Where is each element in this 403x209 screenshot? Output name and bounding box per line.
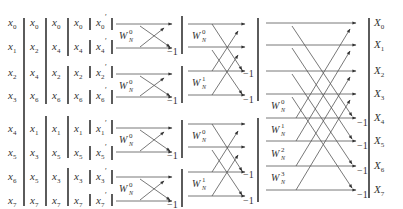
output-label: X1 [373, 38, 385, 53]
input-label-original: x1 [7, 40, 17, 55]
input-label-split-3: x5 [73, 146, 83, 161]
neg-one-stage3: −1 [357, 165, 368, 176]
svg-text:W: W [119, 134, 129, 145]
svg-text:W: W [271, 100, 281, 111]
svg-text:W: W [192, 130, 202, 141]
input-label-bit-reversed: x0′ [95, 13, 106, 31]
twiddle-stage3: W2N [271, 146, 286, 161]
input-label-split-2: x2 [51, 66, 61, 81]
twiddle-stage1: W0N [119, 181, 134, 196]
stage-3-butterflies: W0N−1W1N−1W2N−1W3N−1 [266, 23, 368, 200]
input-label-split-1: x2 [29, 40, 39, 55]
svg-text:N: N [128, 190, 134, 196]
twiddle-stage3: W3N [271, 170, 286, 185]
output-label: X7 [373, 183, 385, 198]
twiddle-stage2: W1N [192, 75, 207, 90]
twiddle-stage1: W0N [119, 28, 134, 43]
stage1-cross-up [140, 181, 164, 200]
input-label-split-2: x5 [51, 146, 61, 161]
svg-text:N: N [128, 141, 134, 147]
input-label-bit-reversed: x5′ [95, 143, 106, 161]
stage3-cross-up [296, 77, 350, 166]
svg-text:W: W [192, 77, 202, 88]
fft-butterfly-diagram: x0x1x2x3x4x5x6x7x0x2x4x6x1x3x5x7x0x4x2x6… [0, 0, 403, 209]
twiddle-stage3: W0N [271, 98, 286, 113]
stage2-cross-up [212, 55, 238, 95]
stage1-cross-up [140, 78, 164, 96]
neg-one-stage1: −1 [167, 199, 178, 209]
output-label: X3 [373, 87, 385, 102]
input-label-split-3: x2 [73, 66, 83, 81]
input-label-split-1: x3 [29, 146, 39, 161]
input-label-bit-reversed: x7′ [95, 191, 106, 209]
twiddle-stage3: W1N [271, 122, 286, 137]
svg-text:0: 0 [202, 128, 206, 136]
input-label-original: x5 [7, 146, 17, 161]
stage2-cross-up [212, 31, 238, 71]
stage3-cross-up [296, 51, 350, 141]
stage3-cross-down [292, 48, 352, 139]
svg-text:0: 0 [281, 98, 285, 106]
input-label-bit-reversed: x1′ [95, 119, 106, 137]
neg-one-stage2: −1 [243, 94, 254, 105]
stage-2-butterflies: W0NW1N−1−1W0NW1N−1−1 [188, 24, 254, 206]
input-label-split-3: x0 [73, 16, 83, 31]
neg-one-stage3: −1 [357, 189, 368, 200]
input-label-split-1: x0 [29, 16, 39, 31]
twiddle-stage1: W0N [119, 78, 134, 93]
input-label-split-1: x7 [29, 194, 39, 209]
stage3-cross-down [292, 74, 352, 164]
twiddle-stage2: W0N [192, 128, 207, 143]
twiddle-stage1: W0N [119, 132, 134, 147]
stage3-cross-up [296, 100, 350, 190]
input-label-split-1: x4 [29, 66, 39, 81]
svg-text:W: W [271, 148, 281, 159]
stage3-cross-up [296, 29, 350, 118]
input-label-split-1: x6 [29, 89, 39, 104]
input-label-bit-reversed: x6′ [95, 86, 106, 104]
output-label: X2 [373, 64, 385, 79]
neg-one-stage3: −1 [357, 140, 368, 151]
stage1-cross-up [140, 132, 164, 151]
svg-text:0: 0 [202, 28, 206, 36]
stage3-cross-down [292, 97, 352, 188]
input-label-original: x3 [7, 89, 17, 104]
input-label-split-2: x6 [51, 89, 61, 104]
input-label-original: x4 [7, 122, 17, 137]
input-label-original: x2 [7, 66, 17, 81]
input-label-split-3: x3 [73, 170, 83, 185]
input-label-columns: x0x1x2x3x4x5x6x7x0x2x4x6x1x3x5x7x0x4x2x6… [7, 13, 106, 209]
output-label: X6 [373, 159, 385, 174]
input-label-split-2: x3 [51, 170, 61, 185]
neg-one-stage2: −1 [243, 195, 254, 206]
output-labels: X0X1X2X3X4X5X6X7 [373, 16, 385, 198]
svg-text:1: 1 [202, 75, 206, 83]
diagram-canvas: x0x1x2x3x4x5x6x7x0x2x4x6x1x3x5x7x0x4x2x6… [0, 0, 403, 209]
svg-text:N: N [201, 84, 207, 90]
neg-one-stage2: −1 [243, 68, 254, 79]
svg-text:0: 0 [129, 78, 133, 86]
output-label: X5 [373, 134, 385, 149]
input-label-bit-reversed: x4′ [95, 37, 106, 55]
neg-one-stage1: −1 [167, 95, 178, 106]
twiddle-stage2: W1N [192, 176, 207, 191]
svg-text:0: 0 [129, 181, 133, 189]
input-label-split-2: x4 [51, 40, 61, 55]
neg-one-stage3: −1 [357, 117, 368, 128]
input-label-split-1: x5 [29, 170, 39, 185]
input-label-split-1: x1 [29, 122, 39, 137]
svg-text:1: 1 [202, 176, 206, 184]
svg-text:0: 0 [129, 132, 133, 140]
svg-text:1: 1 [281, 122, 285, 130]
svg-text:N: N [201, 137, 207, 143]
input-label-split-3: x1 [73, 122, 83, 137]
stage2-cross-up [212, 131, 238, 172]
svg-text:W: W [119, 30, 129, 41]
stage1-cross-up [140, 28, 164, 47]
stage-1-butterflies: W0N−1W0N−1W0N−1W0N−1 [116, 24, 178, 209]
svg-text:N: N [280, 155, 286, 161]
input-label-split-2: x0 [51, 16, 61, 31]
input-label-split-3: x4 [73, 40, 83, 55]
svg-text:3: 3 [281, 170, 285, 178]
neg-one-stage1: −1 [167, 46, 178, 57]
